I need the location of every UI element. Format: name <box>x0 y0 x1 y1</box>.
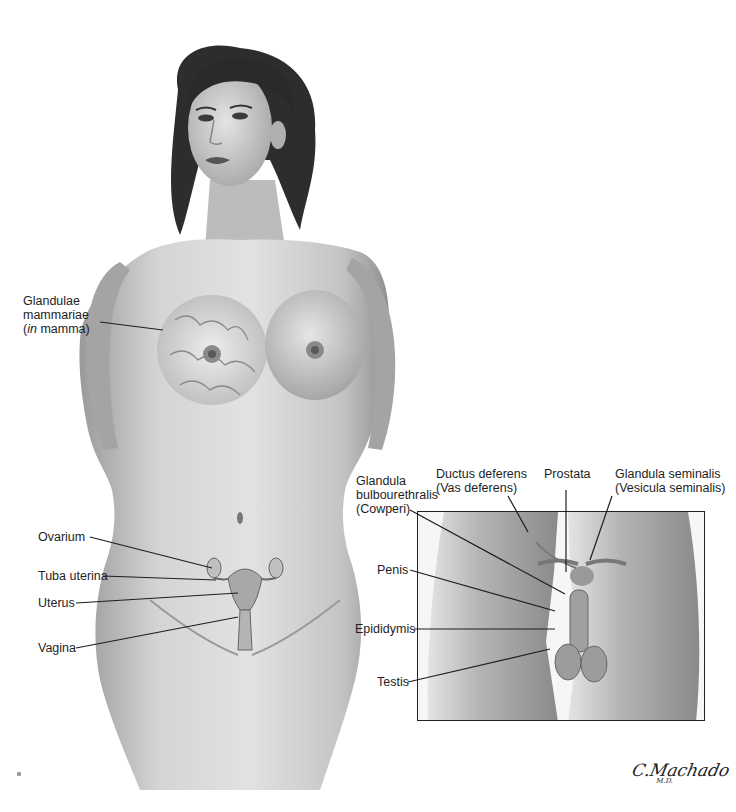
page-mark <box>17 772 21 776</box>
label-rest: mamma) <box>37 322 90 336</box>
label-ovarium: Ovarium <box>38 530 85 544</box>
neck <box>205 180 285 248</box>
label-glandula-bulbourethralis: Glandula bulbourethralis (Cowperi) <box>356 474 438 516</box>
label-glandula-seminalis: Glandula seminalis (Vesicula seminalis) <box>615 467 725 495</box>
italic-word: in <box>27 322 37 336</box>
male-inset-panel <box>417 511 705 721</box>
label-line: Glandulae <box>23 294 90 308</box>
label-line: (in mamma) <box>23 322 90 336</box>
label-epididymis: Epididymis <box>355 622 415 636</box>
label-line: Glandula <box>356 474 438 488</box>
label-line: bulbourethralis <box>356 488 438 502</box>
label-line: mammariae <box>23 308 90 322</box>
signature-name: C.Machado <box>630 760 731 780</box>
anatomy-figure: Glandulae mammariae (in mamma) Ovarium T… <box>0 0 736 812</box>
label-prostata: Prostata <box>544 467 591 481</box>
label-tuba-uterina: Tuba uterina <box>38 569 108 583</box>
label-line: Glandula seminalis <box>615 467 725 481</box>
label-line: (Cowperi) <box>356 502 438 516</box>
label-line: Ductus deferens <box>436 467 527 481</box>
artist-signature: C.Machado M.D. <box>629 760 731 785</box>
label-ductus-deferens: Ductus deferens (Vas deferens) <box>436 467 527 495</box>
male-pelvis-illustration <box>418 512 705 721</box>
label-vagina: Vagina <box>38 641 76 655</box>
label-uterus: Uterus <box>38 596 75 610</box>
label-line: (Vesicula seminalis) <box>615 481 725 495</box>
label-testis: Testis <box>377 675 409 689</box>
label-penis: Penis <box>377 563 408 577</box>
label-line: (Vas deferens) <box>436 481 527 495</box>
label-glandulae-mammariae: Glandulae mammariae (in mamma) <box>23 294 90 336</box>
